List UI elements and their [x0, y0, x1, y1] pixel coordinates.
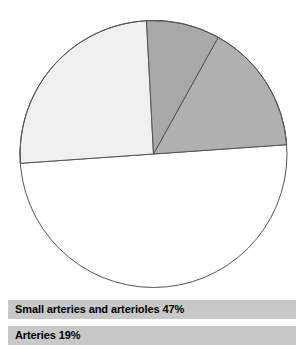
pie-slice-group [20, 20, 287, 163]
legend-item-arteries: Arteries 19% [8, 326, 296, 345]
pie-chart-plot [0, 0, 307, 296]
legend-item-label: Small arteries and arterioles 47% [8, 300, 184, 319]
pie-slice-capillaries [20, 21, 153, 164]
chart-legend: Small arteries and arterioles 47% Arteri… [0, 296, 307, 342]
legend-item-small-arteries-and-arterioles: Small arteries and arterioles 47% [8, 300, 296, 319]
legend-item-label: Arteries 19% [8, 326, 80, 345]
pie-chart-svg [0, 0, 307, 296]
